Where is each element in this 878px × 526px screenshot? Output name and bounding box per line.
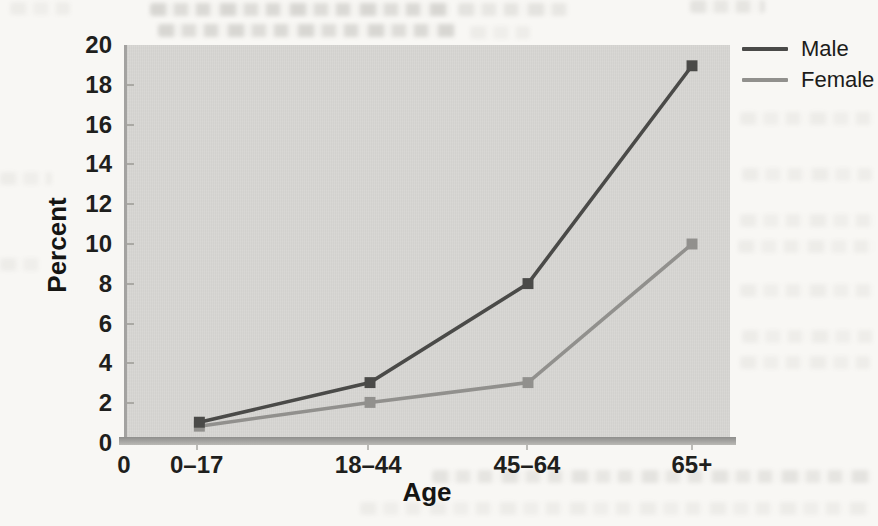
data-point-female	[687, 239, 698, 250]
illegible-text-artifact	[158, 24, 456, 37]
x-tick-mark	[196, 445, 198, 450]
illegible-text-artifact	[740, 214, 876, 227]
x-axis-title: Age	[327, 477, 527, 508]
x-tick-mark	[367, 445, 369, 450]
y-tick-mark	[127, 203, 134, 205]
legend-swatch-male	[742, 47, 788, 51]
data-point-male	[687, 60, 698, 71]
legend: MaleFemale	[742, 33, 874, 95]
chart-lines	[127, 45, 730, 443]
data-point-female	[365, 397, 376, 408]
illegible-text-artifact	[740, 284, 875, 297]
y-tick-mark	[127, 243, 134, 245]
legend-label: Female	[801, 67, 874, 93]
illegible-text-artifact	[10, 2, 70, 15]
illegible-text-artifact	[742, 330, 874, 343]
legend-swatch-female	[742, 78, 788, 82]
legend-item-male: Male	[742, 33, 874, 64]
y-tick-label: 4	[28, 349, 112, 377]
y-tick-label: 12	[28, 190, 112, 218]
illegible-text-artifact	[740, 356, 870, 369]
y-tick-label: 10	[28, 230, 112, 258]
illegible-text-artifact	[690, 0, 765, 13]
y-tick-label: 16	[28, 111, 112, 139]
y-tick-mark	[127, 323, 134, 325]
x-tick-mark	[691, 445, 693, 450]
y-tick-mark	[127, 124, 134, 126]
illegible-text-artifact	[740, 112, 875, 125]
series-line-male	[199, 66, 692, 422]
x-tick-label: 0–17	[137, 452, 257, 478]
x-tick-label: 45–64	[467, 452, 587, 478]
illegible-text-artifact	[742, 168, 872, 181]
data-point-male	[523, 278, 534, 289]
legend-label: Male	[801, 36, 849, 62]
y-tick-label: 20	[28, 31, 112, 59]
plot-area	[124, 45, 730, 443]
y-tick-label: 6	[28, 310, 112, 338]
y-tick-mark	[127, 163, 134, 165]
y-tick-label: 2	[28, 389, 112, 417]
illegible-text-artifact	[150, 3, 450, 16]
data-point-female	[523, 377, 534, 388]
x-tick-label: 65+	[632, 452, 752, 478]
y-tick-label: 18	[28, 71, 112, 99]
x-tick-label: 18–44	[308, 452, 428, 478]
y-tick-label: 8	[28, 270, 112, 298]
y-tick-mark	[127, 84, 134, 86]
y-tick-mark	[127, 283, 134, 285]
illegible-text-artifact	[470, 26, 530, 39]
legend-item-female: Female	[742, 64, 874, 95]
data-point-male	[194, 417, 205, 428]
x-tick-mark	[526, 445, 528, 450]
y-tick-mark	[127, 362, 134, 364]
y-tick-mark	[127, 402, 134, 404]
x-axis-line	[119, 437, 736, 445]
illegible-text-artifact	[738, 240, 876, 253]
y-tick-label: 14	[28, 150, 112, 178]
scanned-page: Percent Age MaleFemale 02468101214161820…	[0, 0, 878, 526]
data-point-male	[365, 377, 376, 388]
illegible-text-artifact	[458, 3, 570, 16]
